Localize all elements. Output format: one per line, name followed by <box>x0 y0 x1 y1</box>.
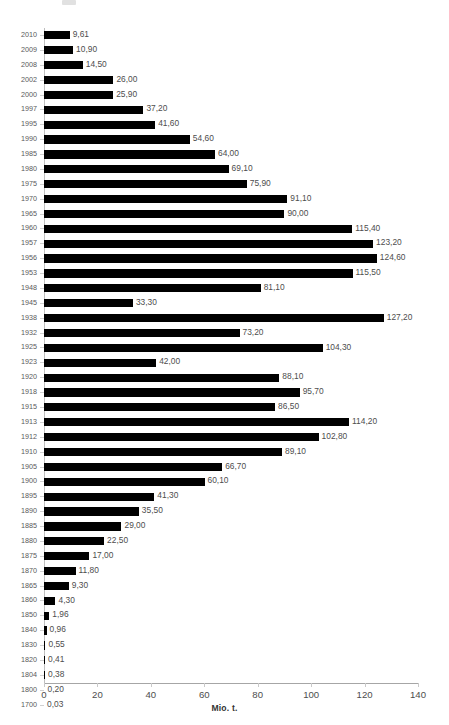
bar-row: 187011,80 <box>44 564 418 579</box>
bar-value-label: 115,40 <box>355 223 380 234</box>
category-label: 1912 <box>21 431 37 442</box>
category-label: 1918 <box>21 386 37 397</box>
bar-value-label: 81,10 <box>264 282 285 293</box>
category-label: 1840 <box>21 624 37 635</box>
bar <box>44 210 284 218</box>
bar-row: 194533,30 <box>44 296 418 311</box>
category-label: 1920 <box>21 371 37 382</box>
bar-row: 190566,70 <box>44 460 418 475</box>
category-label: 1915 <box>21 401 37 412</box>
bar-row: 1953115,50 <box>44 266 418 281</box>
bar-row: 1913114,20 <box>44 415 418 430</box>
bar-row: 191895,70 <box>44 385 418 400</box>
bar-value-label: 64,00 <box>218 148 239 159</box>
bar-row: 189541,30 <box>44 489 418 504</box>
bar-value-label: 88,10 <box>282 371 303 382</box>
bar <box>44 403 275 411</box>
category-label: 1975 <box>21 178 37 189</box>
category-label: 1900 <box>21 475 37 486</box>
bar-value-label: 26,00 <box>116 74 137 85</box>
bar <box>44 433 319 441</box>
bar-row: 193273,20 <box>44 326 418 341</box>
category-label: 1970 <box>21 193 37 204</box>
x-axis-tick-label: 100 <box>303 689 319 701</box>
bar <box>44 76 113 84</box>
bar-row: 200226,00 <box>44 73 418 88</box>
x-axis-tick <box>204 683 205 687</box>
category-label: 1957 <box>21 237 37 248</box>
bar-value-label: 124,60 <box>380 252 406 263</box>
bar <box>44 463 222 471</box>
bar-value-label: 127,20 <box>387 312 413 323</box>
bar-value-label: 75,90 <box>250 178 271 189</box>
bar-row: 192342,00 <box>44 355 418 370</box>
category-label: 1925 <box>21 341 37 352</box>
bar-row: 191586,50 <box>44 400 418 415</box>
bar-chart: 20109,61200910,90200814,50200226,0020002… <box>0 0 449 725</box>
category-label: 1985 <box>21 148 37 159</box>
bar-value-label: 60,10 <box>208 475 229 486</box>
bar <box>44 671 45 679</box>
category-label: 2000 <box>21 89 37 100</box>
bar <box>44 180 247 188</box>
category-label: 1953 <box>21 267 37 278</box>
bar-row: 192088,10 <box>44 370 418 385</box>
bar <box>44 299 133 307</box>
bar-row: 1957123,20 <box>44 236 418 251</box>
bar-value-label: 33,30 <box>136 297 157 308</box>
category-label: 1875 <box>21 550 37 561</box>
bar-value-label: 35,50 <box>142 505 163 516</box>
clipped-title-artifact <box>62 0 76 5</box>
x-axis-tick-label: 0 <box>41 689 46 701</box>
x-axis-tick-label: 80 <box>252 689 263 701</box>
x-axis-tick-label: 20 <box>92 689 103 701</box>
bar-row: 199737,20 <box>44 102 418 117</box>
category-label: 1910 <box>21 446 37 457</box>
bar-row: 20109,61 <box>44 28 418 43</box>
bar-value-label: 66,70 <box>225 461 246 472</box>
x-axis-tick <box>418 683 419 687</box>
category-label: 1905 <box>21 461 37 472</box>
category-label: 1800 <box>21 684 37 695</box>
bar <box>44 552 89 560</box>
bar <box>44 329 240 337</box>
bar-value-label: 9,30 <box>72 580 88 591</box>
bar-row: 1960115,40 <box>44 221 418 236</box>
x-axis-tick <box>311 683 312 687</box>
category-label: 2009 <box>21 44 37 55</box>
bar-value-label: 1,96 <box>52 609 68 620</box>
bar <box>44 195 287 203</box>
bar <box>44 537 104 545</box>
category-label: 1885 <box>21 520 37 531</box>
bar <box>44 567 76 575</box>
bar-value-label: 104,30 <box>326 342 352 353</box>
bar-value-label: 89,10 <box>285 446 306 457</box>
bar <box>44 641 45 649</box>
bar-value-label: 95,70 <box>303 386 324 397</box>
bar <box>44 374 279 382</box>
x-axis-tick-label: 120 <box>357 689 373 701</box>
category-label: 1895 <box>21 490 37 501</box>
category-label: 1956 <box>21 252 37 263</box>
bar <box>44 388 300 396</box>
bar <box>44 344 323 352</box>
x-axis-tick <box>151 683 152 687</box>
bar-row: 190060,10 <box>44 474 418 489</box>
bar-value-label: 0,55 <box>48 639 64 650</box>
bar-value-label: 123,20 <box>376 237 402 248</box>
bar <box>44 254 377 262</box>
x-axis-tick <box>44 683 45 687</box>
bar-value-label: 0,20 <box>48 684 64 695</box>
bar <box>44 626 47 634</box>
bar <box>44 46 73 54</box>
bar <box>44 150 215 158</box>
category-label: 1830 <box>21 639 37 650</box>
bar-row: 18400,96 <box>44 623 418 638</box>
bar-row: 188529,00 <box>44 519 418 534</box>
bar-value-label: 41,30 <box>157 490 178 501</box>
x-axis-tick-label: 40 <box>146 689 157 701</box>
category-label: 2010 <box>21 29 37 40</box>
bar <box>44 493 154 501</box>
category-label: 1880 <box>21 535 37 546</box>
bar-value-label: 4,30 <box>58 595 74 606</box>
